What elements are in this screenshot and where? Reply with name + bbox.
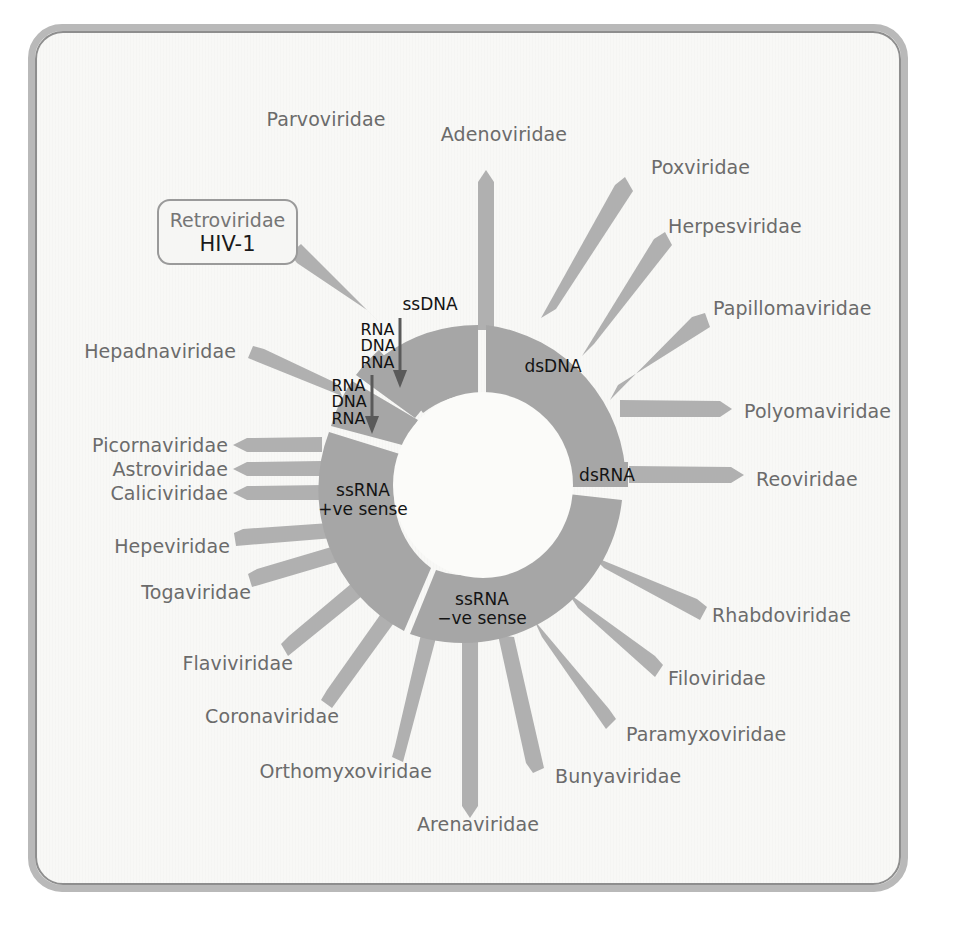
retroviridae-virus-label: HIV-1 [199, 232, 255, 256]
spoke-hepadnaviridae [248, 346, 342, 396]
family-label-paramyxoviridae: Paramyxoviridae [626, 723, 786, 745]
sector-label-ssrna-pos: ssRNA +ve sense [318, 481, 408, 519]
conversion-label-upper: RNA DNA RNA [360, 322, 395, 371]
conversion-label-lower: RNA DNA RNA [331, 378, 366, 427]
family-label-rhabdoviridae: Rhabdoviridae [712, 604, 851, 626]
spoke-picornaviridae [233, 437, 322, 452]
sector-label-dsrna: dsRNA [579, 466, 635, 485]
spoke-arenaviridae [462, 636, 478, 818]
family-label-parvoviridae: Parvoviridae [266, 108, 385, 130]
spoke-orthomyxoviridae [392, 630, 437, 762]
family-label-togaviridae: Togaviridae [141, 581, 251, 603]
spoke-polyomaviridae [620, 400, 732, 417]
sector-label-dsdna: dsDNA [524, 357, 581, 376]
family-label-herpesviridae: Herpesviridae [668, 215, 802, 237]
spoke-togaviridae [248, 545, 344, 587]
spoke-herpesviridae [582, 232, 672, 356]
family-label-papillomaviridae: Papillomaviridae [713, 297, 872, 319]
family-label-reoviridae: Reoviridae [756, 468, 858, 490]
spoke-rhabdoviridae [592, 556, 707, 620]
family-label-polyomaviridae: Polyomaviridae [744, 400, 891, 422]
family-label-hepadnaviridae: Hepadnaviridae [84, 340, 236, 362]
figure-root: ssDNA dsDNA dsRNA ssRNA −ve sense ssRNA … [0, 0, 971, 936]
spoke-caliciviridae [233, 485, 324, 500]
family-label-coronaviridae: Coronaviridae [205, 705, 339, 727]
spoke-hepeviridae [234, 523, 334, 546]
spoke-filoviridae [568, 593, 663, 677]
spoke-bunyaviridae [498, 635, 544, 773]
family-label-arenaviridae: Arenaviridae [417, 813, 539, 835]
family-label-poxviridae: Poxviridae [651, 156, 750, 178]
family-label-filoviridae: Filoviridae [668, 667, 766, 689]
retroviridae-family-label: Retroviridae [170, 209, 286, 231]
spoke-reoviridae [629, 466, 744, 483]
family-label-adenoviridae: Adenoviridae [441, 123, 567, 145]
spoke-coronaviridae [321, 608, 396, 708]
spoke-papillomaviridae [610, 313, 710, 400]
family-label-astroviridae: Astroviridae [112, 458, 228, 480]
family-label-orthomyxoviridae: Orthomyxoviridae [259, 760, 432, 782]
sector-label-ssrna-neg: ssRNA −ve sense [437, 590, 527, 628]
family-label-hepeviridae: Hepeviridae [114, 535, 230, 557]
family-label-bunyaviridae: Bunyaviridae [555, 765, 681, 787]
spoke-paramyxoviridae [534, 620, 616, 729]
spoke-retroviridae [290, 244, 378, 321]
sector-label-ssdna: ssDNA [402, 295, 457, 314]
retroviridae-callout-box: Retroviridae HIV-1 [157, 199, 298, 265]
family-label-picornaviridae: Picornaviridae [92, 434, 228, 456]
family-label-caliciviridae: Caliciviridae [111, 482, 229, 504]
spoke-adenoviridae [478, 170, 494, 330]
wheel-hub [393, 392, 573, 578]
spoke-astroviridae [233, 461, 322, 476]
family-label-flaviviridae: Flaviviridae [182, 652, 293, 674]
